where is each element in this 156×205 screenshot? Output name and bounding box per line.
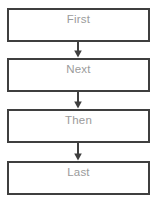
flowchart-node-label: Then	[9, 114, 148, 127]
arrow-down-icon	[71, 92, 85, 109]
flowchart-node-label: Next	[9, 63, 148, 76]
flowchart-diagram: First Next Then Last	[0, 0, 156, 205]
flowchart-node-label: Last	[9, 166, 148, 179]
arrow-down-icon	[71, 143, 85, 161]
flowchart-node-next[interactable]: Next	[7, 58, 150, 92]
arrow-down-icon	[71, 42, 85, 58]
flowchart-node-then[interactable]: Then	[7, 109, 150, 143]
flowchart-node-last[interactable]: Last	[7, 161, 150, 195]
flowchart-node-label: First	[9, 13, 148, 26]
flowchart-node-first[interactable]: First	[7, 8, 150, 42]
